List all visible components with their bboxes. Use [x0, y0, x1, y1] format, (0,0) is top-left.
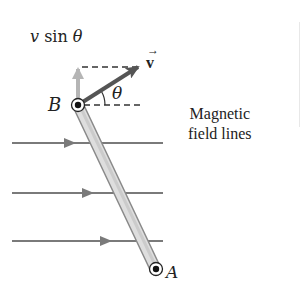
- point-a-marker: [150, 263, 163, 276]
- point-b-marker: [72, 99, 85, 112]
- velocity-vector-arrow: [78, 67, 138, 105]
- diagram-canvas: v sin θ → v θ B A Magnetic field lines: [0, 0, 302, 292]
- v-symbol: v: [30, 27, 39, 46]
- field-line-2-arrow-icon: [82, 188, 94, 198]
- angle-label: θ: [112, 83, 122, 103]
- theta-symbol: θ: [73, 27, 83, 46]
- angle-arc: [102, 92, 106, 106]
- v-sin-theta-label: v sin θ: [30, 27, 83, 46]
- sin-text: sin: [39, 27, 73, 46]
- field-label-line-2: field lines: [188, 124, 252, 144]
- field-label-line-1: Magnetic: [188, 104, 252, 124]
- point-b-label: B: [48, 94, 61, 115]
- conducting-rod: [78, 105, 158, 270]
- velocity-vector-label: → v: [146, 46, 159, 72]
- image-edge-divider: [299, 22, 300, 127]
- field-line-3-arrow-icon: [100, 236, 112, 246]
- magnetic-field-label: Magnetic field lines: [188, 104, 252, 144]
- point-a-label: A: [166, 262, 178, 282]
- field-line-1-arrow-icon: [64, 138, 76, 148]
- vector-arrow-icon: →: [147, 46, 159, 54]
